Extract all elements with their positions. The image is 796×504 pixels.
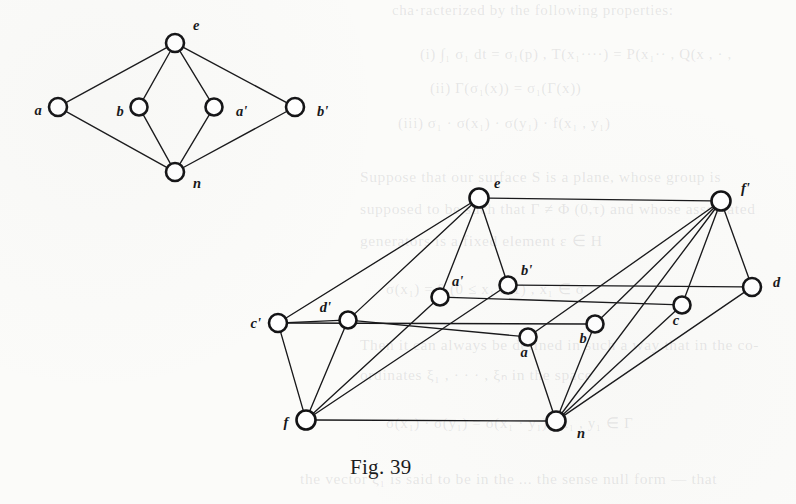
- graph-node-d: [743, 278, 761, 296]
- graph-edge-e-a: [66, 48, 166, 103]
- graph-node-label-d: d: [773, 274, 781, 290]
- graph-node-c: [674, 297, 691, 314]
- graph-edge-cp-dp: [287, 320, 339, 322]
- graph-node-n: [166, 163, 184, 181]
- graph-edge-fp-n: [562, 209, 715, 413]
- graph-node-label-fp: f': [741, 180, 750, 196]
- graph-node-e: [470, 189, 489, 208]
- graph-node-cp: [269, 314, 287, 332]
- graph-edge-e-bp: [482, 207, 505, 276]
- graph-node-label-e: e: [494, 175, 501, 191]
- graph-edge-bp-d: [517, 285, 743, 287]
- graph-node-label-a: a: [34, 102, 41, 118]
- graph-node-label-ap: a': [236, 103, 247, 119]
- graph-node-label-c: c: [673, 312, 680, 328]
- graph-node-n: [547, 412, 566, 431]
- graph-node-ap: [206, 99, 223, 116]
- graph-node-label-bp: b': [317, 103, 328, 119]
- graph-node-a: [520, 329, 537, 346]
- graph-node-label-e: e: [193, 17, 200, 33]
- graph-node-label-b: b: [579, 330, 586, 346]
- graph-node-label-f: f: [284, 414, 291, 430]
- graph-node-ap: [432, 289, 449, 306]
- upper-graph: eaba'b'n: [34, 17, 328, 191]
- graph-node-f: [297, 411, 316, 430]
- graph-node-bp: [500, 277, 517, 294]
- graph-node-e: [166, 34, 184, 52]
- graph-node-fp: [712, 192, 731, 211]
- graph-node-label-cp: c': [251, 315, 261, 331]
- graph-node-dp: [340, 312, 357, 329]
- graph-edge-cp-b: [288, 323, 587, 324]
- figure-39-graphs: eaba'b'nef'b'a'dcd'c'bafn: [0, 0, 796, 504]
- graph-node-b: [131, 99, 148, 116]
- graph-edge-n-a: [66, 112, 166, 168]
- graph-node-label-n: n: [193, 175, 201, 191]
- graph-node-label-ap: a': [452, 273, 463, 289]
- graph-edge-fp-b: [601, 208, 713, 318]
- graph-node-label-bp: b': [521, 262, 532, 278]
- figure-caption: Fig. 39: [350, 455, 412, 480]
- upper-graph-edges: [66, 47, 286, 167]
- graph-edge-n-bp: [183, 112, 286, 168]
- lower-graph: ef'b'a'dcd'c'bafn: [251, 175, 781, 441]
- graph-node-label-dp: d': [320, 299, 331, 315]
- graph-edge-f-n: [316, 420, 546, 421]
- graph-node-b: [587, 316, 604, 333]
- graph-edge-bp-f: [314, 290, 500, 414]
- graph-edge-fp-d: [724, 210, 748, 278]
- graph-edge-a-n: [531, 346, 553, 412]
- graph-node-a: [49, 98, 67, 116]
- figure-page: cha·racterized by the following properti…: [0, 0, 796, 504]
- graph-edge-ap-c: [449, 297, 673, 304]
- graph-node-label-b: b: [116, 103, 123, 119]
- graph-node-bp: [286, 98, 304, 116]
- graph-edge-d-n: [564, 292, 744, 415]
- graph-edge-cp-f: [281, 332, 304, 410]
- graph-edge-e-bp: [183, 47, 286, 102]
- graph-node-label-n: n: [577, 425, 585, 441]
- graph-edge-e-fp: [489, 198, 711, 201]
- graph-node-label-a: a: [520, 344, 527, 360]
